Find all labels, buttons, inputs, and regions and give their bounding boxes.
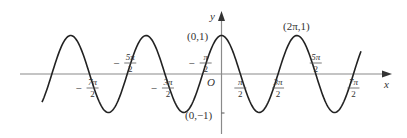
point-label-2pi-1: (2π,1) bbox=[283, 20, 310, 33]
tick-denominator: 2 bbox=[203, 64, 208, 74]
tick-label-m3pi2: −3π2 bbox=[151, 77, 174, 99]
tick-numerator: 3π bbox=[162, 77, 173, 87]
tick-label-m5pi2: −5π2 bbox=[113, 52, 136, 74]
y-axis-label: y bbox=[209, 10, 215, 22]
cosine-graph: x y O (0,1) (0,−1) (2π,1) −7π2−5π2−3π2−π… bbox=[0, 0, 407, 138]
x-axis-arrow-icon bbox=[382, 71, 392, 78]
x-axis-label: x bbox=[383, 78, 389, 90]
tick-label-pi2: π2 bbox=[234, 77, 246, 99]
tick-numerator: 5π bbox=[126, 52, 136, 62]
tick-sign: − bbox=[75, 82, 81, 94]
tick-numerator: 5π bbox=[311, 52, 321, 62]
tick-denominator: 2 bbox=[90, 89, 95, 99]
tick-denominator: 2 bbox=[238, 89, 243, 99]
tick-label-m7pi2: −7π2 bbox=[75, 77, 98, 99]
tick-label-3pi2: 3π2 bbox=[272, 77, 284, 99]
tick-numerator: 7π bbox=[88, 77, 98, 87]
point-label-0-minus-1: (0,−1) bbox=[185, 109, 213, 122]
tick-sign: − bbox=[151, 82, 157, 94]
tick-denominator: 2 bbox=[276, 89, 281, 99]
y-axis-arrow-icon bbox=[218, 11, 225, 21]
tick-denominator: 2 bbox=[314, 64, 319, 74]
point-label-0-1: (0,1) bbox=[187, 30, 208, 43]
tick-sign: − bbox=[113, 57, 119, 69]
tick-denominator: 2 bbox=[166, 89, 171, 99]
tick-label-7pi2: 7π2 bbox=[347, 77, 359, 99]
tick-numerator: 3π bbox=[273, 77, 284, 87]
tick-numerator: π bbox=[203, 52, 208, 62]
tick-numerator: π bbox=[238, 77, 243, 87]
origin-label: O bbox=[207, 76, 215, 88]
tick-denominator: 2 bbox=[351, 89, 356, 99]
tick-denominator: 2 bbox=[128, 64, 133, 74]
tick-sign: − bbox=[189, 57, 195, 69]
tick-label-5pi2: 5π2 bbox=[310, 52, 322, 74]
tick-numerator: 7π bbox=[349, 77, 359, 87]
